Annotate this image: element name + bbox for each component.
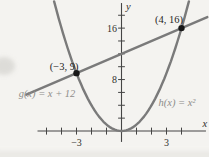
intersection-point (178, 25, 184, 31)
y-axis-label: y (125, 1, 131, 12)
graph-svg: 3−3816xyg(x) = x + 12h(x) = x²(−3, 9)(4,… (0, 0, 209, 157)
y-tick-label: 8 (112, 74, 117, 85)
scan-artifact-left (0, 57, 15, 75)
function-label-g: g(x) = x + 12 (19, 88, 76, 100)
point-label: (−3, 9) (50, 61, 79, 73)
scan-artifact-bottom (0, 151, 209, 157)
y-tick-label: 16 (107, 23, 117, 34)
point-label: (4, 16) (155, 14, 183, 26)
x-tick-label: −3 (71, 137, 82, 148)
x-tick-label: 3 (164, 137, 169, 148)
function-label-h: h(x) = x² (158, 97, 196, 109)
function-graph-figure: 3−3816xyg(x) = x + 12h(x) = x²(−3, 9)(4,… (0, 0, 209, 157)
x-axis-label: x (201, 118, 207, 129)
